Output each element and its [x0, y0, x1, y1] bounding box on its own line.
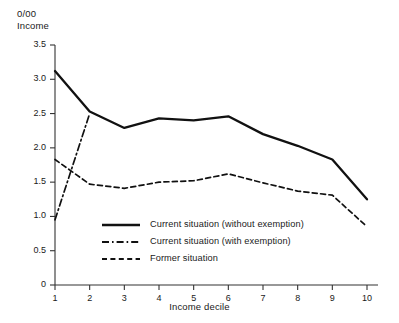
y-axis-tick-label: 3.0 [12, 73, 46, 83]
y-axis-ticks [50, 45, 55, 285]
chart-container: 0/00 Income 00.51.01.52.02.53.03.5 12345… [0, 0, 399, 323]
x-axis-ticks [55, 285, 367, 290]
series-line-0 [55, 71, 367, 199]
legend-label-0: Current situation (without exemption) [150, 219, 304, 229]
y-axis-tick-label: 1.5 [12, 176, 46, 186]
legend-line-samples [102, 225, 140, 259]
y-axis-tick-label: 0.5 [12, 245, 46, 255]
y-axis-tick-label: 3.5 [12, 39, 46, 49]
x-axis-title: Income decile [0, 301, 399, 313]
chart-plot [0, 0, 399, 323]
legend-label-1: Current situation (with exemption) [150, 236, 291, 246]
series-line-1 [55, 114, 90, 220]
chart-axes [55, 45, 378, 285]
y-axis-tick-label: 0 [12, 279, 46, 289]
y-axis-tick-label: 1.0 [12, 210, 46, 220]
y-axis-tick-label: 2.0 [12, 142, 46, 152]
legend-label-2: Former situation [150, 253, 218, 263]
series-line-2 [55, 160, 367, 227]
y-axis-tick-label: 2.5 [12, 108, 46, 118]
chart-series-layer [55, 71, 367, 227]
